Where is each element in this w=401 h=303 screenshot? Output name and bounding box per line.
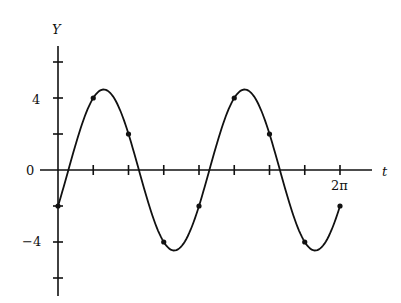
data-point [91,95,96,100]
data-point [302,239,307,244]
y-tick-label-neg4: −4 [22,234,41,249]
data-point [55,203,60,208]
x-tick-label-2pi: 2π [331,178,348,193]
data-point [196,203,201,208]
sine-chart: Y t 4 0 −4 2π [0,0,401,303]
y-tick-label-4: 4 [32,92,40,107]
y-tick-label-0: 0 [26,163,34,178]
data-point [232,95,237,100]
x-axis-label: t [382,164,388,179]
data-point [126,131,131,136]
y-axis-label: Y [52,22,62,37]
data-point [267,131,272,136]
data-point [161,239,166,244]
axes [40,46,372,296]
data-point [337,203,342,208]
